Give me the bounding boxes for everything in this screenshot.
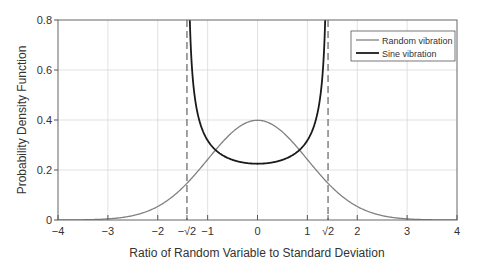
- x-tick-label: 2: [354, 225, 360, 237]
- x-tick-label: −4: [52, 225, 65, 237]
- x-tick-label: 4: [454, 225, 460, 237]
- x-tick-label: √2: [322, 225, 334, 237]
- pdf-chart: −4−3−2−√2−101√2234 00.20.40.60.8 Ratio o…: [0, 0, 479, 270]
- y-tick-label: 0.2: [37, 164, 52, 176]
- x-tick-label: 0: [254, 225, 260, 237]
- y-tick-label: 0.8: [37, 14, 52, 26]
- y-tick-label: 0.6: [37, 64, 52, 76]
- y-tick-label: 0.4: [37, 114, 52, 126]
- x-tick-label: −1: [201, 225, 214, 237]
- y-axis-label: Probability Density Function: [15, 46, 29, 195]
- y-tick-label: 0: [46, 214, 52, 226]
- legend: Random vibration Sine vibration: [351, 31, 455, 61]
- x-tick-label: −3: [102, 225, 115, 237]
- legend-label-random: Random vibration: [382, 36, 453, 46]
- y-axis-ticks: 00.20.40.60.8: [37, 14, 58, 226]
- legend-label-sine: Sine vibration: [382, 49, 437, 59]
- x-tick-label: −√2: [178, 225, 197, 237]
- x-tick-label: 1: [304, 225, 310, 237]
- x-tick-label: −2: [151, 225, 164, 237]
- x-tick-label: 3: [404, 225, 410, 237]
- x-axis-label: Ratio of Random Variable to Standard Dev…: [129, 246, 384, 260]
